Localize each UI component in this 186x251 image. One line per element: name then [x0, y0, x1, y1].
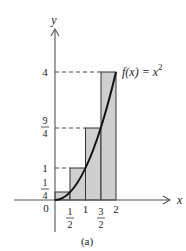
svg-text:4: 4	[43, 128, 48, 139]
x-axis-label: x	[176, 193, 183, 207]
y-tick-9-4: 9 4	[41, 115, 49, 139]
x-tick-1: 1	[83, 203, 89, 215]
function-label: f(x) = x2	[122, 62, 163, 79]
x-tick-2: 2	[113, 203, 119, 215]
y-tick-1-4: 1 4	[41, 177, 49, 201]
svg-text:2: 2	[99, 219, 104, 230]
x-tick-1-2: 1 2	[66, 206, 74, 230]
y-axis-label: y	[50, 13, 57, 27]
svg-text:1: 1	[68, 206, 73, 217]
svg-text:9: 9	[43, 115, 48, 126]
riemann-sum-figure: y x 0 f(x) = x2 4 9 4 1 1 4 1 2 1 3 2 2 …	[0, 0, 186, 251]
figure-caption: (a)	[81, 235, 94, 248]
y-tick-1: 1	[42, 162, 48, 174]
y-tick-4: 4	[42, 66, 48, 78]
svg-text:1: 1	[43, 177, 48, 188]
svg-text:4: 4	[43, 190, 48, 201]
svg-text:2: 2	[68, 219, 73, 230]
rect-4	[101, 72, 116, 200]
x-tick-3-2: 3 2	[97, 206, 105, 230]
rectangles	[55, 72, 116, 200]
origin-label: 0	[43, 202, 49, 214]
svg-text:3: 3	[99, 206, 104, 217]
